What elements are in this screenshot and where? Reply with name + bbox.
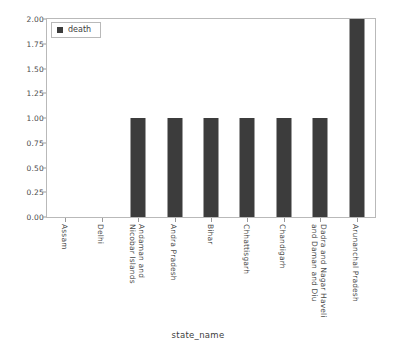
x-axis-tick-mark: [211, 218, 212, 222]
x-axis-tick-mark: [357, 218, 358, 222]
bar-slot: [266, 19, 302, 217]
x-axis-tick-label: Chhattisgarh: [242, 224, 251, 274]
x-axis-tick-mark: [320, 218, 321, 222]
x-axis-tick-label: Chandigarh: [278, 224, 287, 269]
y-axis-tick-label: 1.00: [4, 114, 44, 123]
x-axis-tick-mark: [65, 218, 66, 222]
bar[interactable]: [313, 118, 328, 217]
x-axis-tick-mark: [175, 218, 176, 222]
bar[interactable]: [349, 19, 364, 217]
y-axis-tick-label: 1.50: [4, 64, 44, 73]
x-axis-title: state_name: [0, 330, 396, 340]
y-axis-tick-label: 0.50: [4, 163, 44, 172]
bar[interactable]: [131, 118, 146, 217]
x-axis-tick-label: Assam: [60, 224, 69, 250]
bar-slot: [47, 19, 83, 217]
bar-slot: [156, 19, 192, 217]
y-axis-tick-label: 2.00: [4, 15, 44, 24]
bar-series-death: [47, 19, 375, 217]
x-axis-tick-mark: [247, 218, 248, 222]
bar-slot: [193, 19, 229, 217]
bar-slot: [83, 19, 119, 217]
y-axis-tick-label: 0.00: [4, 213, 44, 222]
x-axis-tick-label: Arunanchal Pradesh: [351, 224, 360, 302]
bar-chart-figure: 0.000.250.500.751.001.251.501.752.00 Ass…: [0, 0, 396, 355]
x-axis-tick-label: Dadra and Nagar Haveli and Daman and Diu: [310, 224, 328, 317]
y-axis-tick-label: 0.75: [4, 138, 44, 147]
legend-swatch-death-icon: [57, 27, 63, 33]
x-axis-tick-label: Andaman and Nicobar Islands: [128, 224, 146, 284]
y-axis-tick-label: 0.25: [4, 188, 44, 197]
bar-slot: [302, 19, 338, 217]
bar[interactable]: [276, 118, 291, 217]
bar[interactable]: [240, 118, 255, 217]
y-axis-tick-label: 1.25: [4, 89, 44, 98]
x-axis-tick-mark: [138, 218, 139, 222]
x-axis-tick-label: Bihar: [206, 224, 215, 244]
legend[interactable]: death: [51, 22, 101, 38]
legend-label-death: death: [68, 26, 91, 34]
bar-slot: [229, 19, 265, 217]
bar-slot: [339, 19, 375, 217]
x-axis-tick-label: Andra Pradesh: [169, 224, 178, 281]
bar-slot: [120, 19, 156, 217]
x-axis-tick-mark: [102, 218, 103, 222]
x-axis-tick-mark: [284, 218, 285, 222]
bar[interactable]: [167, 118, 182, 217]
x-axis-tick-label: Delhi: [96, 224, 105, 244]
bar[interactable]: [203, 118, 218, 217]
y-axis-tick-label: 1.75: [4, 39, 44, 48]
